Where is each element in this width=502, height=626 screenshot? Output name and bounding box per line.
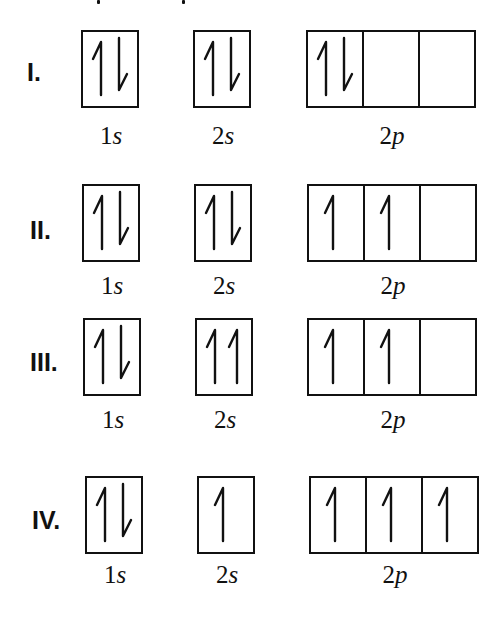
orbital-box-2p xyxy=(307,184,477,262)
orbital-label-subshell: s xyxy=(113,272,123,299)
orbital-box-1s xyxy=(85,476,143,554)
orbital-cell xyxy=(311,478,367,552)
orbital-label-number: 1 xyxy=(101,272,114,299)
spin-down-arrow-icon xyxy=(113,318,133,396)
orbital-cell xyxy=(421,478,479,552)
spin-down-arrow-icon xyxy=(224,184,244,262)
orbital-label-number: 2 xyxy=(213,272,226,299)
orbital-cell xyxy=(362,32,420,106)
orbital-label-number: 1 xyxy=(104,561,117,588)
row-numeral-label: III. xyxy=(30,348,58,377)
orbital-cell xyxy=(196,186,252,260)
orbital-label-2p: 2p xyxy=(352,122,432,150)
spin-down-arrow-icon xyxy=(223,30,243,108)
orbital-box-2s xyxy=(195,318,253,396)
spin-up-arrow-icon xyxy=(379,476,399,554)
orbital-cell xyxy=(363,186,421,260)
orbital-box-2s xyxy=(197,476,255,554)
orbital-label-number: 2 xyxy=(216,561,229,588)
spin-down-arrow-icon xyxy=(111,30,131,108)
orbital-box-1s xyxy=(81,30,139,108)
orbital-cell xyxy=(363,320,421,394)
text-fragment-dot xyxy=(182,0,185,4)
orbital-label-2p: 2p xyxy=(353,406,433,434)
orbital-cell xyxy=(84,186,140,260)
orbital-label-subshell: s xyxy=(224,122,234,149)
spin-up-arrow-icon xyxy=(90,184,110,262)
row-numeral-label: I. xyxy=(27,58,41,87)
spin-up-arrow-icon xyxy=(314,30,334,108)
orbital-label-2s: 2s xyxy=(185,406,265,434)
orbital-label-2s: 2s xyxy=(184,272,264,300)
orbital-cell xyxy=(419,320,477,394)
orbital-cell xyxy=(197,320,253,394)
orbital-label-subshell: s xyxy=(112,122,122,149)
text-fragment-dot xyxy=(97,0,100,4)
orbital-cell xyxy=(365,478,423,552)
orbital-label-1s: 1s xyxy=(72,272,152,300)
spin-up-arrow-icon xyxy=(202,184,222,262)
orbital-label-subshell: p xyxy=(393,272,406,299)
orbital-label-subshell: s xyxy=(228,561,238,588)
orbital-cell xyxy=(195,32,251,106)
orbital-cell xyxy=(309,320,365,394)
spin-up-arrow-icon xyxy=(211,476,231,554)
orbital-label-number: 1 xyxy=(102,406,115,433)
orbital-label-number: 2 xyxy=(380,122,393,149)
orbital-label-subshell: p xyxy=(392,122,405,149)
spin-down-arrow-icon xyxy=(115,476,135,554)
orbital-label-1s: 1s xyxy=(73,406,153,434)
orbital-cell xyxy=(418,32,476,106)
orbital-label-2s: 2s xyxy=(187,561,267,589)
orbital-box-2s xyxy=(193,30,251,108)
orbital-label-number: 1 xyxy=(100,122,113,149)
orbital-cell xyxy=(199,478,255,552)
spin-up-arrow-icon xyxy=(93,476,113,554)
row-numeral-label: II. xyxy=(30,216,51,245)
spin-up-arrow-icon xyxy=(91,318,111,396)
orbital-label-2s: 2s xyxy=(183,122,263,150)
orbital-label-number: 2 xyxy=(214,406,227,433)
orbital-box-1s xyxy=(83,318,141,396)
spin-up-arrow-icon xyxy=(377,184,397,262)
spin-up-arrow-icon xyxy=(89,30,109,108)
orbital-cell xyxy=(83,32,139,106)
spin-down-arrow-icon xyxy=(336,30,356,108)
orbital-cell xyxy=(87,478,143,552)
orbital-cell xyxy=(85,320,141,394)
orbital-label-subshell: p xyxy=(395,561,408,588)
spin-up-arrow-icon xyxy=(321,184,341,262)
orbital-cell xyxy=(419,186,477,260)
row-numeral-label: IV. xyxy=(32,506,60,535)
spin-down-arrow-icon xyxy=(112,184,132,262)
orbital-label-subshell: s xyxy=(225,272,235,299)
orbital-label-subshell: s xyxy=(226,406,236,433)
spin-up-arrow-icon xyxy=(201,30,221,108)
orbital-label-subshell: s xyxy=(114,406,124,433)
spin-up-arrow-icon xyxy=(203,318,223,396)
orbital-box-2p xyxy=(306,30,476,108)
orbital-label-2p: 2p xyxy=(355,561,435,589)
orbital-box-2p xyxy=(307,318,477,396)
orbital-label-number: 2 xyxy=(383,561,396,588)
spin-up-arrow-icon xyxy=(435,476,455,554)
orbital-label-2p: 2p xyxy=(353,272,433,300)
spin-up-arrow-icon xyxy=(323,476,343,554)
orbital-label-number: 2 xyxy=(381,272,394,299)
orbital-cell xyxy=(309,186,365,260)
orbital-box-2s xyxy=(194,184,252,262)
orbital-label-subshell: s xyxy=(116,561,126,588)
orbital-label-1s: 1s xyxy=(71,122,151,150)
orbital-label-subshell: p xyxy=(393,406,406,433)
spin-up-arrow-icon xyxy=(321,318,341,396)
orbital-box-1s xyxy=(82,184,140,262)
orbital-box-2p xyxy=(309,476,479,554)
spin-up-arrow-icon xyxy=(225,318,245,396)
spin-up-arrow-icon xyxy=(377,318,397,396)
orbital-label-number: 2 xyxy=(212,122,225,149)
orbital-label-number: 2 xyxy=(381,406,394,433)
orbital-cell xyxy=(308,32,364,106)
orbital-label-1s: 1s xyxy=(75,561,155,589)
